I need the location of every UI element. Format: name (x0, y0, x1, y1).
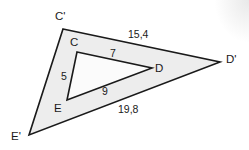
side-length-label-c-d: 7 (110, 47, 116, 59)
vertex-label-d: D (155, 62, 163, 74)
vertex-label-d-prime: D' (226, 53, 237, 65)
geometry-figure: C' D' E' C D E 15,4 19,8 7 5 9 (0, 0, 249, 150)
side-length-label-e-prime-d-prime: 19,8 (118, 103, 139, 115)
side-length-label-c-prime-d-prime: 15,4 (128, 28, 149, 40)
vertex-label-e-prime: E' (11, 130, 21, 142)
side-length-label-e-d: 9 (102, 85, 108, 97)
vertex-label-c-prime: C' (55, 10, 66, 22)
vertex-label-e: E (54, 102, 62, 114)
side-length-label-c-e: 5 (61, 70, 67, 82)
similar-triangles-diagram: C' D' E' C D E 15,4 19,8 7 5 9 (0, 0, 249, 150)
outer-triangle-shape (29, 29, 220, 135)
vertex-label-c: C (70, 36, 78, 48)
